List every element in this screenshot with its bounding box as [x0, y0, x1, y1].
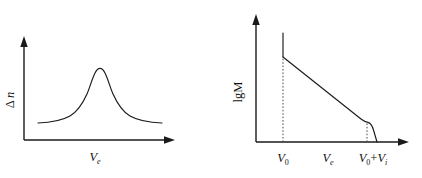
x-tick-label-ve: Ve	[322, 151, 334, 167]
left-y-axis-label-delta: Δ	[3, 100, 17, 108]
chart-panel-right: lgM V0 Ve V0+Vi	[211, 0, 422, 178]
right-y-axis-label: lgM	[231, 82, 245, 103]
right-calibration-curve	[283, 57, 377, 142]
left-peak-curve	[38, 68, 162, 123]
caption-strip	[0, 171, 422, 178]
right-x-axis	[256, 138, 409, 145]
right-y-axis-arrow-icon	[252, 14, 259, 25]
svg-text:Ve: Ve	[322, 151, 334, 167]
left-x-axis-arrow-icon	[164, 136, 175, 143]
left-y-axis	[20, 36, 27, 140]
chart-panel-left: Δn Ve	[0, 0, 211, 178]
right-y-axis	[252, 14, 259, 142]
x-tick-sum-operator: +	[370, 151, 377, 165]
x-tick-v0-subscript: 0	[285, 158, 289, 167]
x-tick-ve-subscript: e	[330, 158, 334, 167]
svg-text:V0: V0	[277, 151, 289, 167]
left-y-axis-label-symbol: n	[3, 92, 17, 98]
left-y-axis-arrow-icon	[20, 36, 27, 47]
x-tick-label-v0: V0	[277, 151, 289, 167]
figure-canvas: Δn Ve	[0, 0, 422, 178]
right-x-axis-arrow-icon	[398, 138, 409, 145]
svg-text:V0+Vi: V0+Vi	[359, 151, 388, 167]
svg-text:Δn: Δn	[3, 92, 17, 108]
left-x-axis	[24, 136, 175, 143]
x-tick-label-v0-plus-vi: V0+Vi	[359, 151, 388, 167]
right-y-axis-label-text: lgM	[231, 82, 245, 103]
left-x-axis-label: Ve	[89, 150, 101, 166]
svg-text:Ve: Ve	[89, 150, 101, 166]
left-y-axis-label: Δn	[3, 92, 17, 108]
left-x-axis-label-subscript: e	[97, 157, 101, 166]
x-tick-sum-subscript-2: i	[385, 158, 387, 167]
